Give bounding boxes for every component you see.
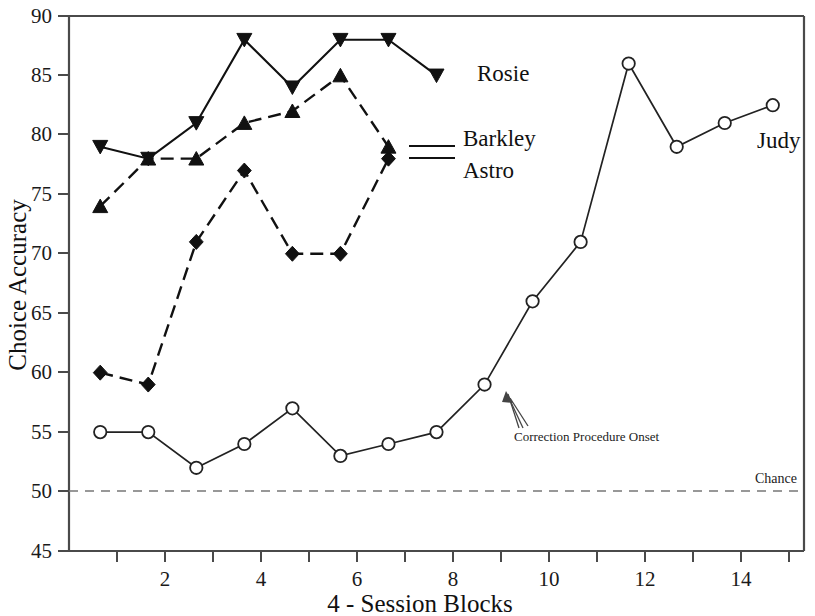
x-tick-12: 12	[635, 567, 656, 591]
data-point-circle-open	[238, 438, 250, 450]
y-tick-50: 50	[31, 479, 52, 503]
data-point-circle-open	[670, 141, 682, 153]
data-point-circle-open	[190, 462, 202, 474]
series-label-rosie: Rosie	[477, 61, 529, 86]
chart-background	[0, 0, 815, 616]
y-tick-55: 55	[31, 420, 52, 444]
chart-figure: 90 85 80 75 70 65 60 55 50 45	[0, 0, 815, 616]
series-label-barkley: Barkley	[463, 126, 536, 151]
data-point-circle-open	[478, 378, 490, 390]
data-point-circle-open	[430, 426, 442, 438]
y-tick-60: 60	[31, 360, 52, 384]
y-tick-75: 75	[31, 182, 52, 206]
x-tick-8: 8	[448, 567, 459, 591]
y-tick-85: 85	[31, 63, 52, 87]
x-axis-title: 4 - Session Blocks	[327, 590, 512, 616]
data-point-circle-open	[767, 99, 779, 111]
x-tick-6: 6	[352, 567, 363, 591]
data-point-circle-open	[142, 426, 154, 438]
line-chart-svg: 90 85 80 75 70 65 60 55 50 45	[0, 0, 815, 616]
y-tick-65: 65	[31, 301, 52, 325]
x-tick-10: 10	[539, 567, 560, 591]
series-label-judy: Judy	[757, 128, 801, 153]
data-point-circle-open	[334, 450, 346, 462]
y-axis-title: Choice Accuracy	[4, 199, 31, 371]
series-label-astro: Astro	[463, 158, 514, 183]
correction-onset-label: Correction Procedure Onset	[514, 429, 660, 444]
data-point-circle-open	[94, 426, 106, 438]
y-tick-70: 70	[31, 241, 52, 265]
x-tick-4: 4	[256, 567, 267, 591]
data-point-circle-open	[526, 295, 538, 307]
y-tick-80: 80	[31, 122, 52, 146]
x-tick-14: 14	[731, 567, 753, 591]
data-point-circle-open	[286, 402, 298, 414]
y-tick-45: 45	[31, 539, 52, 563]
data-point-circle-open	[574, 236, 586, 248]
data-point-circle-open	[382, 438, 394, 450]
y-tick-90: 90	[31, 4, 52, 28]
chance-label: Chance	[755, 471, 797, 486]
data-point-circle-open	[622, 57, 634, 69]
data-point-circle-open	[719, 117, 731, 129]
x-tick-2: 2	[160, 567, 171, 591]
